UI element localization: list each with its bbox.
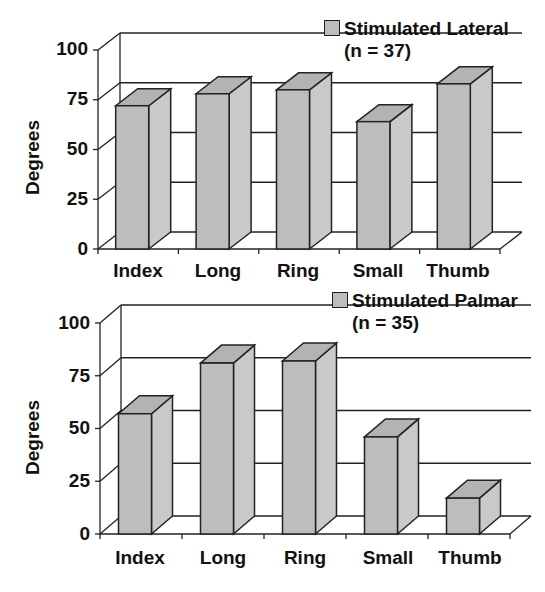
x-tick-label: Long: [183, 547, 263, 569]
y-tick: 25: [50, 470, 90, 492]
legend: Stimulated Palmar (n = 35): [332, 290, 518, 334]
y-tick: 100: [50, 312, 90, 334]
legend-swatch-icon: [332, 292, 348, 308]
chart-stimulated-palmar: Stimulated Palmar (n = 35) Degrees 100 7…: [0, 0, 545, 592]
x-tick-label: Thumb: [430, 547, 510, 569]
x-tick-label: Ring: [265, 547, 345, 569]
legend-label: Stimulated Palmar: [352, 290, 518, 311]
y-tick: 50: [50, 417, 90, 439]
x-tick-label: Index: [100, 547, 180, 569]
legend-n: (n = 35): [332, 312, 518, 334]
y-tick: 0: [50, 523, 90, 545]
y-axis-label: Degrees: [22, 400, 44, 475]
y-tick: 75: [50, 365, 90, 387]
x-tick-label: Small: [348, 547, 428, 569]
